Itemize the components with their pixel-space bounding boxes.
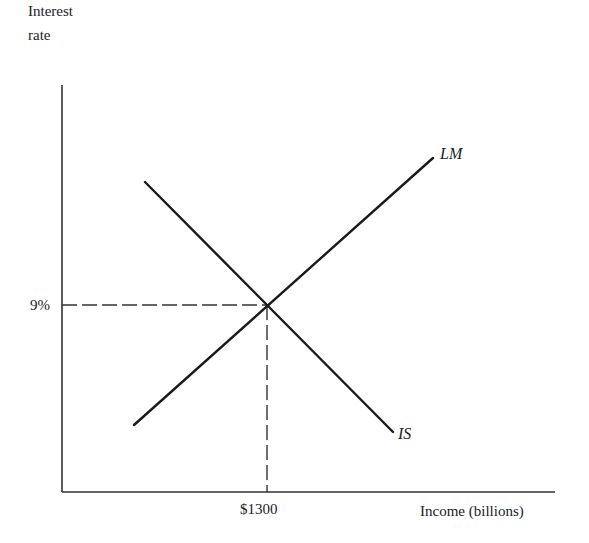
x-axis-label: Income (billions)	[420, 502, 524, 520]
x-tick-1300: $1300	[240, 500, 278, 518]
is-curve	[145, 182, 393, 432]
lm-curve	[134, 158, 433, 425]
y-tick-9-percent: 9%	[30, 296, 50, 314]
is-curve-label: IS	[398, 425, 411, 443]
plot-area	[0, 0, 589, 543]
lm-curve-label: LM	[440, 145, 462, 163]
